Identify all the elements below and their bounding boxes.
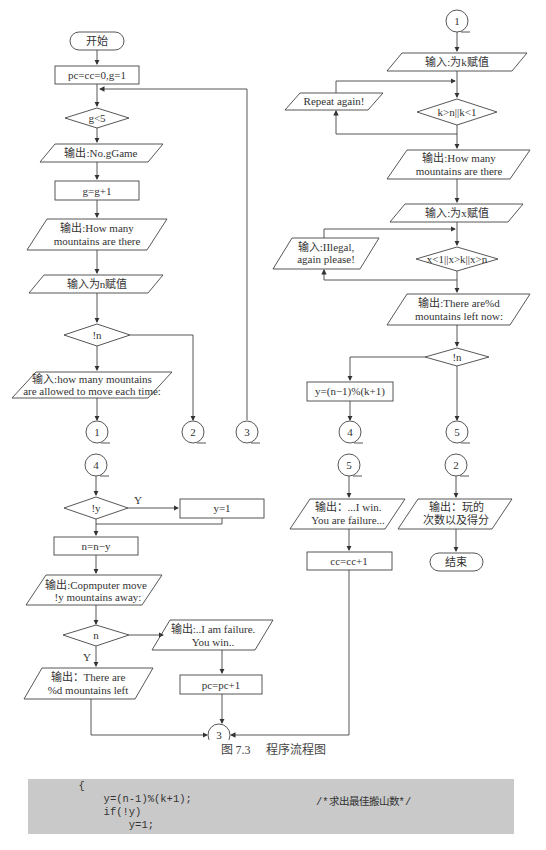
out-how-many-label-1: 输出:How many: [60, 221, 134, 234]
connector-5-top-label: 5: [454, 426, 460, 438]
illegal-label-2: again please!: [297, 253, 355, 265]
set-y-label: y=1: [213, 502, 230, 514]
cond-y-label: !y: [91, 502, 101, 514]
code-block: { y=(n-1)%(k+1); if(!y) y=1; /*求出最佳搬山数*/: [28, 779, 514, 834]
out-remain-label-2: %d mountains left: [48, 684, 129, 696]
connector-3-label: 3: [244, 426, 250, 438]
out-left-now-label-1: 输出:There are%d: [418, 296, 500, 309]
cond-n-yes-label: Y: [83, 651, 91, 663]
cond-g-label: g<5: [88, 112, 106, 124]
connector-1-label: 1: [94, 426, 100, 438]
in-move-label-2: are allowed to move each time:: [23, 385, 161, 397]
connector-1-top-label: 1: [454, 15, 460, 27]
out-win-label-1: 输出：...I win.: [315, 500, 382, 513]
connector-4-top-label: 4: [347, 426, 353, 438]
in-n-label: 输入为n赋值: [67, 277, 128, 290]
calc-y-label: y=(n−1)%(k+1): [315, 385, 385, 398]
flowchart: 开始 pc=cc=0,g=1 g<5 输出:No.gGame g=g+1 输出:…: [0, 0, 546, 740]
repeat-label: Repeat again!: [304, 95, 365, 107]
cond-n-label: !n: [92, 329, 102, 341]
inc-cc-label: cc=cc+1: [330, 555, 367, 567]
out-how-many-right-label-1: 输出:How many: [422, 151, 496, 164]
out-score-label-2: 次数以及得分: [423, 513, 489, 526]
out-left-now-label-2: mountains left now:: [415, 310, 503, 322]
cond-y-yes-label: Y: [134, 494, 142, 506]
in-k-label: 输入:为k赋值: [425, 55, 489, 68]
out-comp-label-2: !y mountains away:: [55, 591, 142, 603]
init-label: pc=cc=0,g=1: [68, 69, 126, 81]
cond-k-label: k>n||k<1: [438, 106, 477, 118]
figure-caption: 图 7.3 程序流程图: [0, 740, 546, 758]
out-how-many-label-2: mountains are there: [54, 235, 141, 247]
figure-number: 图 7.3: [221, 743, 251, 757]
out-remain-label-1: 输出：There are: [51, 670, 126, 683]
cond-n-bottom-label: n: [93, 629, 99, 641]
illegal-label-1: 输入:IIlegal,: [298, 240, 355, 253]
connector-5-label: 5: [346, 459, 352, 471]
inc-pc-label: pc=pc+1: [202, 679, 241, 691]
end-label: 结束: [445, 556, 467, 568]
code-line-3: if(!y): [28, 806, 141, 819]
out-comp-label-1: 输出:Copmputer move: [45, 578, 147, 591]
inc-g-label: g=g+1: [83, 185, 112, 197]
out-game-label: 输出:No.gGame: [64, 146, 137, 159]
cond-n-right-label: !n: [452, 351, 462, 363]
out-fail-label-2: You win..: [192, 636, 235, 648]
connector-2-label: 2: [190, 426, 196, 438]
in-move-label-1: 输入:how many mountains: [32, 372, 152, 385]
out-score-label-1: 输出：玩的: [429, 500, 484, 513]
code-line-4: y=1;: [28, 819, 154, 832]
code-line-1: {: [28, 780, 85, 793]
code-comment: /*求出最佳搬山数*/: [316, 793, 411, 808]
connector-4-label: 4: [93, 459, 99, 471]
sub-n-label: n=n−y: [82, 540, 111, 552]
out-how-many-right-label-2: mountains are there: [416, 165, 503, 177]
out-fail-label-1: 输出:..I am failure.: [171, 622, 256, 635]
connector-2-bottom-label: 2: [453, 459, 459, 471]
code-line-2: y=(n-1)%(k+1);: [28, 793, 192, 806]
start-label: 开始: [86, 34, 108, 47]
figure-title: 程序流程图: [266, 743, 326, 757]
cond-x-label: x<1||x>k||x>n: [427, 253, 488, 265]
in-x-label: 输入:为x赋值: [425, 206, 489, 219]
connector-3-bottom-label: 3: [216, 729, 222, 740]
out-win-label-2: You are failure...: [311, 514, 385, 526]
